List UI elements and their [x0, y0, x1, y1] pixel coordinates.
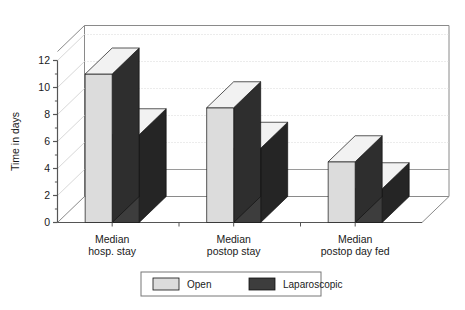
- legend-swatch-laparoscopic: [249, 278, 275, 290]
- axis-y-title: Time in days: [9, 112, 21, 171]
- bar-open-2-front-face: [207, 108, 234, 223]
- grid-diagonal-6: [58, 116, 85, 142]
- legend-swatch-open: [153, 278, 179, 290]
- legend-label-laparoscopic: Laparoscopic: [283, 279, 342, 290]
- bar-open-1-side-face: [112, 48, 139, 223]
- bar-open-3-front-face: [328, 162, 355, 223]
- axis-y-tick-label-8: 8: [44, 108, 50, 120]
- grid-diagonal-10: [58, 62, 85, 88]
- axis-x-label-1-line2: hosp. stay: [88, 245, 137, 257]
- axis-x-label-3-line2: postop day fed: [321, 245, 390, 257]
- floor-diagonal-left: [58, 197, 85, 223]
- axis-y-tick-label-0: 0: [44, 216, 50, 228]
- grid-diagonal-8: [58, 89, 85, 115]
- floor-diagonal-right: [422, 197, 449, 223]
- axis-y-tick-label-10: 10: [38, 81, 50, 93]
- grid-diagonal-2: [58, 170, 85, 196]
- bar-chart-3d: 024681012Time in daysMedianhosp. stayMed…: [0, 0, 465, 310]
- axis-x-label-1-line1: Median: [95, 233, 130, 245]
- axis-x-label-2-line1: Median: [216, 233, 251, 245]
- axis-y-tick-label-2: 2: [44, 189, 50, 201]
- axis-y-tick-label-6: 6: [44, 135, 50, 147]
- bar-open-1: [85, 48, 139, 223]
- bar-open-2: [207, 82, 261, 223]
- bar-open-1-front-face: [85, 74, 112, 223]
- axis-y-tick-label-12: 12: [38, 54, 50, 66]
- grid-diagonal-4: [58, 143, 85, 169]
- chart-container: 024681012Time in daysMedianhosp. stayMed…: [0, 0, 465, 310]
- axis-x-label-3-line1: Median: [338, 233, 373, 245]
- axis-x-label-2-line2: postop stay: [207, 245, 261, 257]
- axis-y-tick-label-4: 4: [44, 162, 50, 174]
- legend-label-open: Open: [187, 279, 211, 290]
